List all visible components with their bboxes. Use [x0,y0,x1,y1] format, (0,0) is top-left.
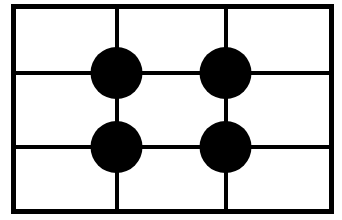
canvas-background [0,0,342,220]
dot-bottom-right [200,121,252,173]
figure-canvas [0,0,342,220]
dot-bottom-left [91,121,143,173]
dot-top-left [91,47,143,99]
dot-top-right [200,47,252,99]
grid-figure-svg [0,0,342,220]
